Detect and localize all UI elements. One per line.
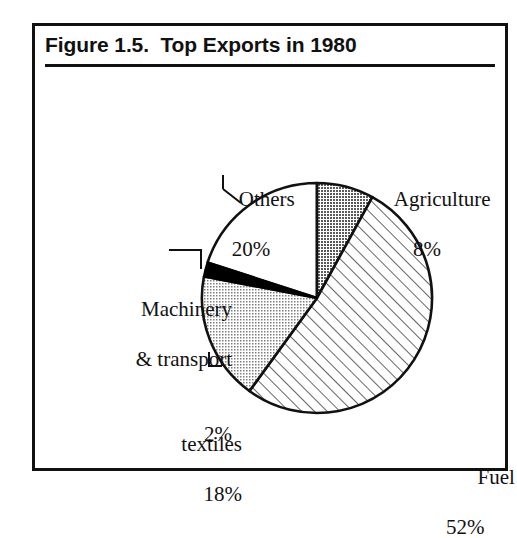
- pie-label-agriculture-name: Agriculture: [394, 187, 491, 211]
- title-divider: [45, 64, 495, 67]
- pie-label-fuel: Fuel 52%: [446, 440, 517, 538]
- pie-chart: Others 20% Agriculture 8% Machinery & tr…: [36, 70, 504, 468]
- pie-label-textiles-name: textiles: [181, 432, 242, 456]
- pie-label-others-value: 20%: [186, 237, 316, 262]
- pie-label-fuel-value: 52%: [446, 515, 517, 538]
- pie-label-others-name: Others: [239, 187, 295, 211]
- pie-label-agriculture: Agriculture 8%: [352, 162, 502, 312]
- page-title: Figure 1.5. Top Exports in 1980: [45, 33, 357, 56]
- pie-label-machinery-name-line1: Machinery: [141, 297, 232, 321]
- pie-label-textiles-value: 18%: [124, 482, 242, 507]
- figure-title-row: Figure 1.5. Top Exports in 1980: [45, 31, 497, 61]
- pie-label-agriculture-value: 8%: [352, 237, 502, 262]
- pie-label-machinery-name-line2: & transport: [72, 347, 232, 372]
- pie-label-fuel-name: Fuel: [478, 465, 515, 489]
- pie-label-textiles: textiles 18%: [124, 407, 242, 538]
